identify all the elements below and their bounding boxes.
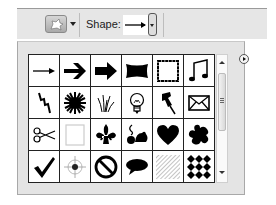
shape-cell-light-bulb[interactable]: [122, 87, 153, 119]
no-symbol-icon: [93, 154, 119, 180]
arrow-block-icon: [93, 58, 119, 84]
shape-cell-envelope[interactable]: [184, 87, 215, 119]
banner-icon: [124, 58, 150, 84]
arrow-thin-icon: [31, 58, 57, 84]
shape-cell-music-notes[interactable]: [184, 55, 215, 87]
tool-preset-button[interactable]: [45, 15, 67, 33]
shape-preview[interactable]: [123, 15, 149, 35]
chevron-down-icon[interactable]: [70, 22, 76, 26]
shape-cell-frame-square[interactable]: [153, 55, 184, 87]
shape-label: Shape:: [86, 18, 121, 30]
shape-cell-speech-bubble[interactable]: [122, 151, 153, 183]
shape-cell-checkmark[interactable]: [29, 151, 60, 183]
grip-icon: [220, 98, 224, 99]
shape-cell-thumbtack[interactable]: [153, 87, 184, 119]
scissors-icon: [31, 122, 57, 148]
ornament-bird-icon: [124, 122, 150, 148]
target-crosshair-icon: [62, 154, 88, 180]
shape-cell-grass[interactable]: [91, 87, 122, 119]
arrow-bold-icon: [62, 58, 88, 84]
lightning-bolt-icon: [31, 90, 57, 116]
divider: [163, 13, 164, 37]
shape-cell-banner[interactable]: [122, 55, 153, 87]
shape-cell-lightning-bolt[interactable]: [29, 87, 60, 119]
shape-cell-blank-frame[interactable]: [60, 119, 91, 151]
music-notes-icon: [186, 58, 212, 84]
scroll-thumb[interactable]: [218, 73, 226, 131]
shape-cell-scissors[interactable]: [29, 119, 60, 151]
shape-cell-target-crosshair[interactable]: [60, 151, 91, 183]
resize-grip-icon[interactable]: [234, 184, 241, 191]
scroll-down-arrow-icon[interactable]: [219, 171, 225, 174]
shape-cell-starburst[interactable]: [60, 87, 91, 119]
shape-cell-diamond-pattern[interactable]: [184, 151, 215, 183]
shape-cell-fleur-de-lis[interactable]: [91, 119, 122, 151]
panel-menu-button[interactable]: [239, 54, 249, 64]
shape-picker-panel: [17, 41, 245, 195]
shape-cell-arrow-thin[interactable]: [29, 55, 60, 87]
shape-cell-hatch-pattern[interactable]: [153, 151, 184, 183]
puzzle-blob-icon: [186, 122, 212, 148]
shape-cell-puzzle-blob[interactable]: [184, 119, 215, 151]
scroll-up-arrow-icon[interactable]: [219, 61, 225, 64]
shape-grid: [28, 54, 215, 183]
shape-cell-no-symbol[interactable]: [91, 151, 122, 183]
options-bar: Shape:: [17, 8, 267, 39]
fleur-de-lis-icon: [93, 122, 119, 148]
shape-cell-ornament-bird[interactable]: [122, 119, 153, 151]
speech-bubble-icon: [124, 154, 150, 180]
vertical-scrollbar[interactable]: [216, 54, 228, 183]
arrow-thin-icon: [123, 15, 149, 35]
envelope-icon: [186, 90, 212, 116]
divider: [79, 13, 80, 37]
shape-cell-heart[interactable]: [153, 119, 184, 151]
thumbtack-icon: [155, 90, 181, 116]
frame-square-icon: [155, 58, 181, 84]
heart-icon: [155, 122, 181, 148]
checkmark-icon: [31, 154, 57, 180]
shape-cell-arrow-bold[interactable]: [60, 55, 91, 87]
shape-cell-arrow-block[interactable]: [91, 55, 122, 87]
shape-dropdown-button[interactable]: [148, 13, 157, 36]
grass-icon: [93, 90, 119, 116]
custom-shape-tool-icon: [49, 18, 64, 31]
starburst-icon: [62, 90, 88, 116]
light-bulb-icon: [124, 90, 150, 116]
diamond-pattern-icon: [186, 154, 212, 180]
hatch-pattern-icon: [155, 154, 181, 180]
blank-frame-icon: [62, 122, 88, 148]
